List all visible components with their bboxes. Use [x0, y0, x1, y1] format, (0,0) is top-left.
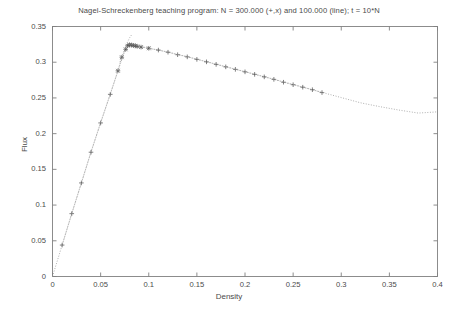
axes-frame — [53, 27, 438, 277]
data-series — [53, 35, 438, 276]
plot-area — [0, 0, 458, 311]
series-markers — [60, 42, 324, 247]
series-line — [62, 45, 322, 245]
axis-ticks — [53, 27, 438, 277]
chart-figure: Nagel-Schreckenberg teaching program: N … — [0, 0, 458, 311]
series-markers-x — [116, 43, 151, 73]
series-line — [53, 44, 438, 276]
